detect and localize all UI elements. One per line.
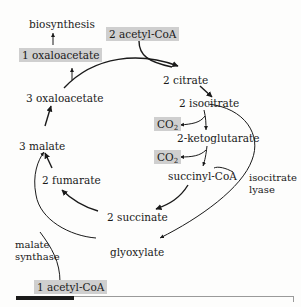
label-2-fumarate: 2 fumarate — [42, 174, 101, 186]
arrow-co2-release-1 — [180, 116, 205, 125]
divider-bar-accent — [16, 296, 74, 300]
arrow-co2-release-2 — [180, 150, 206, 157]
arrow-succinylcoa-to-succinate — [156, 185, 188, 209]
box-2-acetyl-coa: 2 acetyl-CoA — [106, 27, 179, 41]
box-co2-second: CO2 — [154, 150, 181, 164]
label-biosynthesis: biosynthesis — [29, 18, 95, 30]
glyoxylate-cycle-diagram: biosynthesis 1 oxaloacetate 2 acetyl-CoA… — [0, 0, 301, 307]
label-3-malate: 3 malate — [19, 140, 65, 152]
arrow-malate-to-oxaloacetate — [45, 106, 51, 126]
arrow-isocitrate-to-ketoglutarate — [204, 110, 206, 130]
arrow-oxaloacetate-to-citrate — [64, 58, 178, 88]
label-2-isocitrate: 2 isocitrate — [179, 97, 239, 109]
arrow-fumarate-to-malate — [45, 153, 52, 168]
box-1-acetyl-coa: 1 acetyl-CoA — [34, 280, 107, 294]
label-2-citrate: 2 citrate — [163, 74, 208, 86]
label-glyoxylate: glyoxylate — [110, 246, 164, 258]
divider-bar-line — [74, 296, 294, 297]
label-2-succinate: 2 succinate — [107, 211, 168, 223]
box-1-oxaloacetate: 1 oxaloacetate — [19, 48, 102, 62]
label-lyase: lyase — [249, 184, 275, 196]
box-co2-first: CO2 — [154, 117, 181, 131]
arrow-malate-synthase — [35, 152, 96, 238]
label-isocitrate: isocitrate — [249, 172, 297, 184]
arrow-ketoglutarate-to-succinylcoa — [203, 146, 207, 166]
arrow-citrate-to-isocitrate — [200, 86, 212, 97]
divider-bar-end — [293, 296, 294, 302]
label-2-ketoglutarate: 2-ketoglutarate — [177, 132, 259, 144]
arrow-succinate-to-fumarate — [62, 190, 98, 211]
label-3-oxaloacetate: 3 oxaloacetate — [26, 92, 103, 104]
label-malate: malate — [15, 239, 50, 251]
label-synthase: synthase — [15, 251, 60, 263]
label-succinyl-coa: succinyl-CoA — [168, 170, 237, 182]
